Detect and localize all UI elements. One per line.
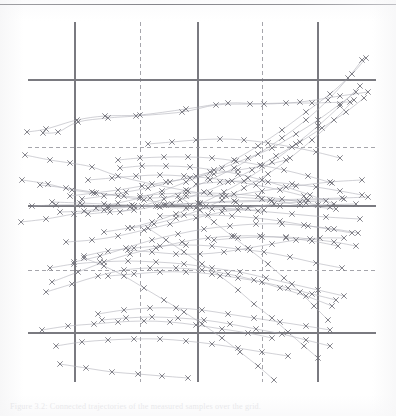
data-point-marker [342, 294, 347, 299]
data-point-marker [270, 146, 275, 151]
series-line [84, 245, 342, 268]
data-point-marker [280, 128, 285, 133]
data-point-marker [334, 298, 339, 303]
data-point-marker [310, 292, 315, 297]
data-point-marker [304, 118, 309, 123]
data-point-marker [286, 330, 291, 335]
trajectory-scatter-chart [0, 10, 396, 388]
data-point-marker [302, 194, 307, 199]
data-point-marker [256, 364, 261, 369]
data-point-marker [254, 327, 259, 332]
data-point-marker [44, 127, 49, 132]
data-point-marker [246, 156, 251, 161]
figure-plot-area [0, 10, 396, 388]
scanned-page: Figure 3.2: Connected trajectories of th… [0, 0, 396, 416]
data-point-marker [182, 310, 187, 315]
data-point-marker [266, 172, 271, 177]
data-point-marker [23, 153, 28, 158]
data-point-marker [250, 168, 255, 173]
data-point-marker [102, 264, 107, 269]
data-point-marker [256, 152, 261, 157]
data-point-marker [270, 336, 275, 341]
data-point-marker [90, 165, 95, 170]
data-point-marker [118, 210, 123, 215]
data-point-marker [308, 193, 313, 198]
data-point-marker [282, 168, 287, 173]
data-point-marker [254, 183, 259, 188]
data-point-marker [162, 298, 167, 303]
data-point-marker [326, 318, 331, 323]
series-line [148, 139, 340, 158]
data-point-marker [362, 96, 367, 101]
data-point-marker [116, 234, 121, 239]
data-point-marker [338, 156, 343, 161]
data-point-marker [312, 304, 317, 309]
series-line [98, 308, 330, 330]
data-point-marker [168, 222, 173, 227]
data-point-marker [280, 332, 285, 337]
data-point-marker [266, 262, 271, 267]
data-point-marker [174, 212, 179, 217]
data-point-marker [236, 172, 241, 177]
data-point-marker [220, 336, 225, 341]
data-point-marker [126, 226, 131, 231]
data-point-marker [44, 290, 49, 295]
data-point-marker [298, 290, 303, 295]
data-point-marker [226, 272, 231, 277]
data-point-marker [286, 286, 291, 291]
data-point-marker [274, 154, 279, 159]
series-line [118, 157, 332, 183]
data-point-marker [50, 280, 55, 285]
data-point-marker [330, 304, 335, 309]
data-point-marker [174, 216, 179, 221]
series-line [60, 364, 188, 378]
data-point-marker [304, 110, 309, 115]
data-point-marker [218, 274, 223, 279]
data-point-marker [200, 262, 205, 267]
data-point-marker [182, 250, 187, 255]
data-point-marker [344, 110, 349, 115]
data-point-marker [242, 186, 247, 191]
data-point-marker [142, 286, 147, 291]
data-point-marker [328, 344, 333, 349]
data-point-marker [70, 282, 75, 287]
data-point-marker [56, 130, 61, 135]
data-point-marker [328, 92, 333, 97]
data-point-marker [168, 180, 173, 185]
data-point-marker [236, 288, 241, 293]
data-point-marker [288, 255, 293, 260]
data-point-marker [326, 98, 331, 103]
data-point-marker [98, 254, 103, 259]
data-point-marker [294, 132, 299, 137]
figure-caption: Figure 3.2: Connected trajectories of th… [10, 401, 386, 415]
data-point-marker [164, 238, 169, 243]
data-point-marker [306, 174, 311, 179]
data-point-marker [330, 181, 335, 186]
series-line [52, 236, 338, 282]
data-point-marker [150, 238, 155, 243]
series-line [56, 339, 288, 356]
page-top-rule [0, 4, 396, 5]
data-point-marker [358, 84, 363, 89]
data-point-marker [270, 316, 275, 321]
data-point-marker [282, 276, 287, 281]
data-point-marker [180, 240, 185, 245]
data-point-marker [152, 222, 157, 227]
data-point-marker [340, 266, 345, 271]
data-point-marker [212, 220, 217, 225]
data-point-marker [122, 274, 127, 279]
data-point-marker [252, 302, 257, 307]
series-line [42, 321, 272, 338]
series-line [148, 228, 318, 358]
data-point-marker [360, 193, 365, 198]
series-line [74, 224, 358, 262]
data-point-marker [354, 244, 359, 249]
data-point-marker [280, 136, 285, 141]
data-point-marker [272, 378, 277, 383]
data-point-marker [256, 144, 261, 149]
series-line [120, 60, 362, 212]
data-point-marker [332, 118, 337, 123]
data-point-marker [302, 344, 307, 349]
data-point-marker [310, 138, 315, 143]
data-point-marker [96, 274, 101, 279]
